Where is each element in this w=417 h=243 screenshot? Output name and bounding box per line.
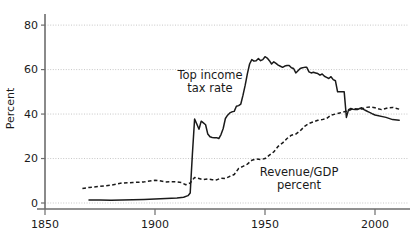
y-tick-label-80: 80 — [24, 19, 38, 32]
axis-lines — [37, 14, 410, 209]
series-annotations: Top incometax rateRevenue/GDPpercent — [176, 68, 338, 192]
line-chart: 020406080 1850190019502000 Percent Top i… — [0, 0, 417, 243]
x-tick-label-1850: 1850 — [31, 218, 59, 231]
gridlines — [45, 25, 408, 203]
x-tick-label-1900: 1900 — [141, 218, 169, 231]
y-tick-labels: 020406080 — [24, 19, 38, 210]
top-income-tax-rate-label: Top incometax rate — [176, 68, 242, 95]
chart-figure: 020406080 1850190019502000 Percent Top i… — [0, 0, 417, 243]
x-tick-label-2000: 2000 — [361, 218, 389, 231]
series-revenue-gdp-percent — [82, 107, 399, 189]
y-tick-label-20: 20 — [24, 152, 38, 165]
y-tick-label-60: 60 — [24, 63, 38, 76]
x-tick-label-1950: 1950 — [251, 218, 279, 231]
y-tick-label-40: 40 — [24, 108, 38, 121]
y-axis-title: Percent — [4, 87, 17, 129]
x-tick-labels: 1850190019502000 — [31, 218, 389, 231]
revenue-gdp-label: Revenue/GDPpercent — [260, 165, 339, 192]
series-top-income-tax-rate — [89, 57, 399, 201]
y-tick-label-0: 0 — [31, 197, 38, 210]
